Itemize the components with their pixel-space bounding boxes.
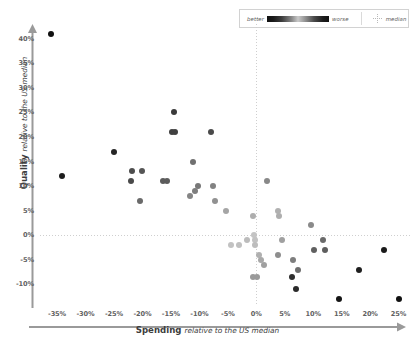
- x-axis-tick-label: -5%: [213, 310, 243, 318]
- median-crosshair-icon: [373, 14, 382, 23]
- data-point: [276, 213, 282, 219]
- y-axis-tick-label: 25%: [4, 108, 34, 116]
- data-point: [187, 193, 193, 199]
- x-axis-tick-label: -20%: [127, 310, 157, 318]
- x-axis-title-sub: relative to the US median: [184, 326, 279, 335]
- data-point: [295, 267, 301, 273]
- y-axis-tick-label: 20%: [4, 133, 34, 141]
- y-axis-tick-label: 15%: [4, 158, 34, 166]
- data-point: [336, 296, 342, 302]
- data-point: [212, 198, 218, 204]
- x-axis-title: Spending relative to the US median: [0, 325, 415, 335]
- legend-gradient-bar: [267, 16, 329, 22]
- data-point: [250, 213, 256, 219]
- data-point: [308, 222, 314, 228]
- data-point: [59, 173, 65, 179]
- data-point: [293, 286, 299, 292]
- x-axis-tick-label: 25%: [384, 310, 414, 318]
- data-point: [264, 178, 270, 184]
- data-point: [356, 267, 362, 273]
- scatter-chart: better worse median Quality relative to …: [0, 0, 415, 347]
- legend-better-label: better: [247, 16, 264, 22]
- data-point: [210, 183, 216, 189]
- data-point: [128, 178, 134, 184]
- data-point: [190, 159, 196, 165]
- data-point: [289, 274, 295, 280]
- data-point: [322, 247, 328, 253]
- data-point: [320, 237, 326, 243]
- data-point: [171, 109, 177, 115]
- x-axis-tick-label: 10%: [298, 310, 328, 318]
- data-point: [244, 237, 250, 243]
- y-axis-tick-label: 35%: [4, 59, 34, 67]
- data-point: [172, 129, 178, 135]
- data-point: [208, 129, 214, 135]
- data-point: [137, 198, 143, 204]
- median-line-vertical: [256, 24, 257, 304]
- x-axis-tick-label: 5%: [270, 310, 300, 318]
- data-point: [139, 168, 145, 174]
- median-line-horizontal: [40, 235, 410, 236]
- data-point: [223, 208, 229, 214]
- x-axis-tick-label: -30%: [71, 310, 101, 318]
- data-point: [275, 252, 281, 258]
- data-point: [129, 168, 135, 174]
- y-axis-tick-label: 30%: [4, 84, 34, 92]
- y-axis-tick-label: 40%: [4, 35, 34, 43]
- x-axis-title-main: Spending: [136, 325, 182, 335]
- data-point: [48, 31, 54, 37]
- data-point: [290, 257, 296, 263]
- data-point: [111, 149, 117, 155]
- x-axis-tick-label: 20%: [355, 310, 385, 318]
- data-point: [195, 183, 201, 189]
- y-axis-tick-label: -5%: [4, 256, 34, 264]
- legend-median-label: median: [386, 16, 407, 22]
- data-point: [311, 247, 317, 253]
- plot-area: [40, 24, 410, 304]
- x-axis-tick-label: -15%: [156, 310, 186, 318]
- y-axis-tick-label: -10%: [4, 280, 34, 288]
- data-point: [236, 242, 242, 248]
- y-axis-tick-label: 10%: [4, 182, 34, 190]
- data-point: [396, 296, 402, 302]
- x-axis-tick-label: 15%: [327, 310, 357, 318]
- data-point: [254, 274, 260, 280]
- x-axis-tick-label: -35%: [42, 310, 72, 318]
- legend-worse-label: worse: [332, 16, 349, 22]
- x-axis-tick-label: 0%: [241, 310, 271, 318]
- x-axis-tick-label: -10%: [184, 310, 214, 318]
- data-point: [261, 262, 267, 268]
- y-axis-tick-label: 5%: [4, 207, 34, 215]
- data-point: [164, 178, 170, 184]
- data-point: [279, 237, 285, 243]
- x-axis-tick-label: -25%: [99, 310, 129, 318]
- data-point: [228, 242, 234, 248]
- data-point: [381, 247, 387, 253]
- y-axis-tick-label: 0%: [4, 231, 34, 239]
